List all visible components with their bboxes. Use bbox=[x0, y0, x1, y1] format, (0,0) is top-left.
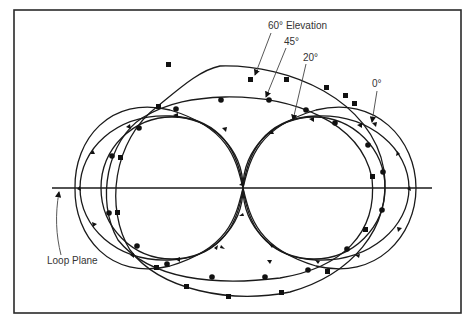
label-0-deg: 0° bbox=[372, 78, 382, 89]
leader-loop-plane bbox=[57, 192, 61, 255]
label-loop-plane: Loop Plane bbox=[47, 255, 98, 266]
curve-60-deg bbox=[116, 66, 385, 296]
label-60-deg-elevation: 60° Elevation bbox=[268, 20, 327, 31]
pattern-diagram: 60° Elevation 45° 20° 0° Loop Plane bbox=[0, 0, 469, 320]
label-45-deg: 45° bbox=[284, 36, 299, 47]
label-20-deg: 20° bbox=[303, 52, 318, 63]
leader-45-deg bbox=[266, 48, 286, 97]
